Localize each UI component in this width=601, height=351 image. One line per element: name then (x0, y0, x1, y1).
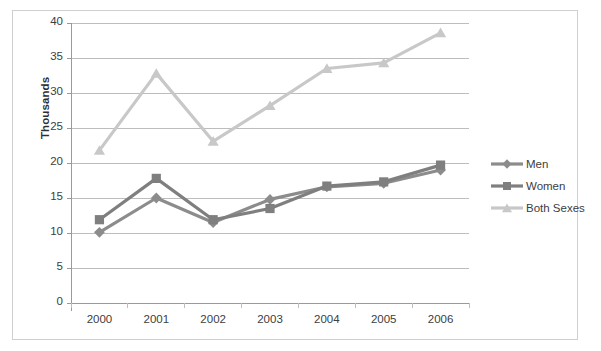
legend-item-men[interactable]: Men (490, 153, 585, 175)
y-tick-label: 0 (39, 295, 63, 307)
y-tick-label: 40 (39, 15, 63, 27)
legend-key-women (490, 179, 524, 193)
legend-item-women[interactable]: Women (490, 175, 585, 197)
legend-key-both-sexes (490, 201, 524, 215)
x-tick-label: 2005 (354, 313, 414, 325)
chart-legend: Men Women Both Sexes (490, 153, 585, 219)
x-tick-label: 2001 (126, 313, 186, 325)
legend-item-both-sexes[interactable]: Both Sexes (490, 197, 585, 219)
series-women (95, 161, 445, 225)
series-men (94, 165, 446, 238)
y-tick-label: 10 (39, 225, 63, 237)
y-tick-label: 25 (39, 120, 63, 132)
legend-label-men: Men (524, 158, 548, 170)
chart-container: Thousands Men Women (12, 10, 578, 340)
x-tick-label: 2000 (69, 313, 129, 325)
y-tick-label: 20 (39, 155, 63, 167)
x-tick-label: 2006 (411, 313, 471, 325)
y-tick-label: 5 (39, 260, 63, 272)
x-tick-label: 2003 (240, 313, 300, 325)
legend-label-both-sexes: Both Sexes (524, 202, 585, 214)
legend-label-women: Women (524, 180, 565, 192)
x-tick-label: 2002 (183, 313, 243, 325)
x-tick-label: 2004 (297, 313, 357, 325)
legend-key-men (490, 157, 524, 171)
series-both-sexes (94, 28, 446, 155)
y-tick-label: 30 (39, 85, 63, 97)
y-tick-label: 15 (39, 190, 63, 202)
y-tick-label: 35 (39, 50, 63, 62)
